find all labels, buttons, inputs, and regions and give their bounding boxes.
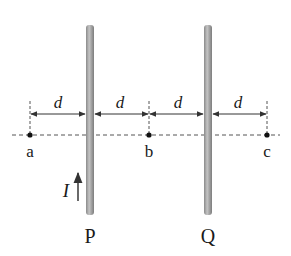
- diagram-svg: d d d d a b c I P Q: [0, 0, 291, 256]
- spacing-label-3: d: [174, 93, 183, 112]
- wire-label-q: Q: [201, 225, 216, 247]
- spacing-label-2: d: [116, 93, 125, 112]
- spacing-label-1: d: [54, 93, 63, 112]
- point-b: [146, 132, 151, 137]
- wire-label-p: P: [84, 225, 95, 247]
- spacing-label-4: d: [234, 93, 243, 112]
- diagram-canvas: d d d d a b c I P Q: [0, 0, 291, 256]
- wire-q: [204, 25, 212, 215]
- point-a: [27, 132, 32, 137]
- point-label-b: b: [145, 142, 154, 161]
- current-label: I: [62, 180, 71, 201]
- wire-p: [86, 25, 94, 215]
- point-label-c: c: [263, 142, 271, 161]
- point-label-a: a: [26, 142, 34, 161]
- point-c: [264, 132, 269, 137]
